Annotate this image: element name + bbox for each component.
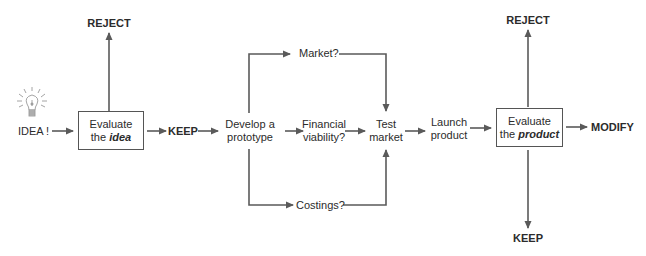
financial-label: Financial viability? <box>301 118 347 144</box>
lightbulb-icon <box>17 87 47 116</box>
financial-line2: viability? <box>301 131 347 144</box>
idea-reject-label: REJECT <box>87 17 131 30</box>
test-market-line2: market <box>366 131 406 144</box>
market-label: Market? <box>299 47 339 60</box>
evaluate-product-prefix: the <box>500 128 518 140</box>
costings-label: Costings? <box>296 199 345 212</box>
product-reject-label: REJECT <box>506 14 550 27</box>
product-keep-label: KEEP <box>510 232 546 245</box>
prototype-line2: prototype <box>218 131 282 144</box>
product-modify-label: MODIFY <box>591 121 634 134</box>
arrow-prototype-to-market <box>249 54 290 113</box>
prototype-line1: Develop a <box>218 118 282 131</box>
test-market-line1: Test <box>366 118 406 131</box>
evaluate-product-line2: the product <box>500 128 559 141</box>
idea-keep-label: KEEP <box>168 125 198 138</box>
idea-label: IDEA ! <box>18 125 49 138</box>
evaluate-idea-line2: the idea <box>91 131 131 144</box>
evaluate-idea-prefix: the <box>91 131 109 143</box>
launch-line1: Launch <box>426 116 472 129</box>
arrow-costings-to-test <box>343 150 386 205</box>
arrow-prototype-to-costings <box>249 149 293 205</box>
evaluate-idea-emphasis: idea <box>109 131 131 143</box>
evaluate-idea-box: Evaluate the idea <box>78 111 144 150</box>
arrow-market-to-test <box>339 54 386 111</box>
evaluate-product-line1: Evaluate <box>508 115 551 128</box>
launch-line2: product <box>426 129 472 142</box>
financial-line1: Financial <box>301 118 347 131</box>
launch-product-label: Launch product <box>426 116 472 142</box>
test-market-label: Test market <box>366 118 406 144</box>
evaluate-product-emphasis: product <box>518 128 559 140</box>
prototype-label: Develop a prototype <box>218 118 282 144</box>
evaluate-product-box: Evaluate the product <box>496 108 563 147</box>
evaluate-idea-line1: Evaluate <box>90 118 133 131</box>
